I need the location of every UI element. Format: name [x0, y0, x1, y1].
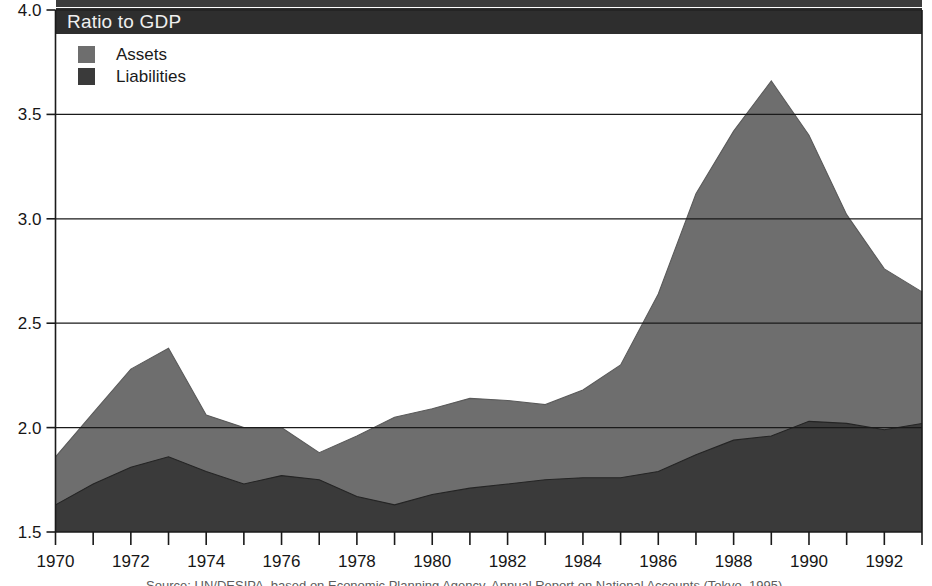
- legend-label-assets: Assets: [116, 46, 167, 63]
- chart-plot-area: [0, 0, 932, 586]
- assets-swatch: [78, 46, 95, 63]
- chart-figure: Ratio to GDP Assets Liabilities 4.03.53.…: [0, 0, 932, 586]
- liabilities-swatch: [78, 68, 95, 85]
- source-note: Source: UN/DESIPA, based on Economic Pla…: [0, 578, 932, 586]
- legend-label-liabilities: Liabilities: [116, 68, 186, 85]
- chart-legend: Assets Liabilities: [78, 44, 186, 86]
- legend-item-assets: Assets: [78, 44, 186, 64]
- legend-item-liabilities: Liabilities: [78, 66, 186, 86]
